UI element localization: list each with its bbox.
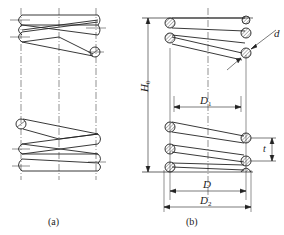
t-pitch-symbol: t xyxy=(263,143,266,154)
d1-symbol: D xyxy=(200,94,208,106)
panel-a xyxy=(10,8,106,180)
h0-dimension xyxy=(146,18,150,172)
caption-b: (b) xyxy=(186,217,198,227)
d1-subscript: 1 xyxy=(208,100,212,108)
h0-subscript: 0 xyxy=(144,81,152,85)
h0-symbol: H xyxy=(138,84,150,92)
panel-a-top-coils xyxy=(10,15,106,57)
d-mean-label: D xyxy=(203,179,211,190)
spring-drawing xyxy=(0,0,284,235)
spring-diagram-figure: H0 D1 D D2 d t (a) (b) xyxy=(0,0,284,235)
d-wire-label: d xyxy=(274,28,280,39)
d2-label: D2 xyxy=(200,195,211,208)
h0-label: H0 xyxy=(139,81,152,92)
d-mean-symbol: D xyxy=(203,178,211,190)
d2-subscript: 2 xyxy=(208,200,212,208)
d-wire-dimension xyxy=(227,30,276,70)
d-wire-symbol: d xyxy=(274,27,280,39)
d2-symbol: D xyxy=(200,194,208,206)
caption-a: (a) xyxy=(48,217,59,227)
d1-label: D1 xyxy=(200,95,211,108)
t-pitch-label: t xyxy=(263,144,266,154)
